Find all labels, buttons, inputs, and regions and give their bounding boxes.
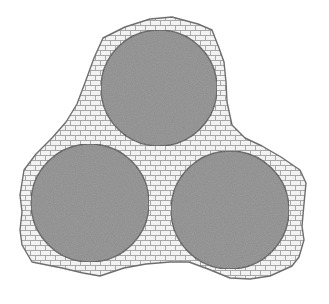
particle-matrix-diagram xyxy=(0,0,329,304)
particle-bottom-left xyxy=(31,144,149,262)
particle-bottom-right xyxy=(171,151,289,269)
particle-top xyxy=(101,30,217,146)
